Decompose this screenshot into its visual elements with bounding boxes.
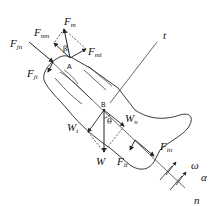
wt-arrow	[88, 110, 104, 132]
fin-arrow	[135, 140, 154, 156]
label-wn: Wn	[125, 113, 138, 126]
label-theta: θ	[107, 118, 112, 126]
fmt-arrow	[70, 49, 86, 58]
fit-arrow	[130, 140, 135, 150]
fjn-arrow	[29, 42, 53, 62]
label-fin: Fin	[160, 141, 172, 154]
label-fm: Fm	[64, 16, 76, 29]
label-w: W	[96, 156, 105, 167]
wn-dashed	[104, 126, 124, 152]
label-fmt: Fmt	[88, 46, 102, 59]
label-alpha: α	[201, 172, 207, 183]
label-fmn: Fmn	[34, 27, 49, 40]
label-point-a: A	[67, 63, 72, 70]
label-fjt: Fjt	[27, 68, 38, 81]
label-n-axis: n	[194, 195, 200, 206]
label-point-b: B	[101, 101, 106, 108]
fmn-dashed	[54, 29, 64, 43]
label-fit: Fit	[117, 156, 128, 169]
label-omega: ω	[191, 160, 199, 171]
label-fjn: Fjn	[10, 38, 22, 51]
label-beta: β	[63, 45, 68, 53]
label-t-axis: t	[163, 30, 166, 41]
label-wt: Wt	[67, 122, 78, 135]
t-axis	[110, 42, 157, 103]
